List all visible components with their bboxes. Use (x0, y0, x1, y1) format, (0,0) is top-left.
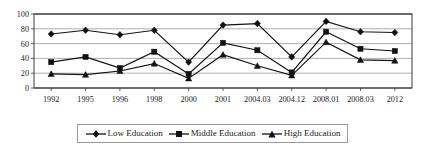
datapoint-1-3 (152, 49, 157, 54)
x-tick-label-1998: 1998 (146, 95, 162, 104)
y-tick-label-60: 60 (21, 40, 29, 49)
x-tick-label-2008.01: 2008.01 (313, 95, 340, 104)
x-tick-label-1992: 1992 (43, 95, 59, 104)
legend-label-middle-education: Middle Education (191, 129, 256, 138)
legend-item-middle-education: Middle Education (168, 129, 256, 139)
legend-label-low-education: Low Education (108, 129, 163, 138)
datapoint-0-2 (117, 31, 123, 38)
y-axis-labels: 020406080100 (17, 10, 29, 93)
datapoint-1-5 (220, 40, 225, 45)
legend-label-high-education: High Education (284, 129, 341, 138)
datapoint-0-9 (357, 28, 363, 35)
x-tick-label-2004.12: 2004.12 (278, 95, 305, 104)
datapoint-1-8 (323, 29, 328, 34)
datapoint-2-8 (323, 39, 329, 45)
y-tick-label-40: 40 (21, 54, 29, 63)
y-tick-label-80: 80 (21, 25, 29, 34)
datapoint-1-6 (255, 48, 260, 53)
datapoint-0-10 (392, 29, 398, 36)
x-tick-label-2008.03: 2008.03 (347, 95, 374, 104)
x-axis-labels: 1992199519961998200020012004.032004.1220… (43, 95, 403, 104)
x-tick-label-2001: 2001 (215, 95, 231, 104)
datapoint-0-1 (82, 27, 88, 34)
x-tick-label-1995: 1995 (77, 95, 93, 104)
legend-item-high-education: High Education (261, 129, 341, 139)
triangle-marker-icon (261, 129, 283, 139)
chart-canvas: 020406080100 199219951996199820002001200… (0, 0, 424, 118)
y-tick-label-20: 20 (21, 69, 29, 78)
series-layer (48, 18, 398, 81)
legend-item-low-education: Low Education (85, 129, 163, 139)
line-chart: 020406080100 199219951996199820002001200… (0, 0, 424, 151)
datapoint-1-1 (83, 54, 88, 59)
datapoint-2-5 (220, 52, 226, 58)
datapoint-1-0 (49, 60, 54, 65)
x-tick-label-2000: 2000 (180, 95, 196, 104)
datapoint-2-3 (151, 60, 157, 66)
y-tick-label-100: 100 (17, 10, 29, 19)
chart-legend: Low Education Middle Education High Educ… (77, 124, 348, 143)
y-tick-label-0: 0 (25, 84, 29, 93)
x-tick-label-2012: 2012 (387, 95, 403, 104)
datapoint-1-10 (392, 48, 397, 53)
datapoint-1-9 (358, 46, 363, 51)
plot-area: 020406080100 199219951996199820002001200… (0, 0, 424, 118)
datapoint-0-0 (48, 31, 54, 38)
square-marker-icon (168, 129, 190, 139)
x-tick-label-2004.03: 2004.03 (244, 95, 271, 104)
x-tick-label-1996: 1996 (112, 95, 128, 104)
diamond-marker-icon (85, 129, 107, 139)
